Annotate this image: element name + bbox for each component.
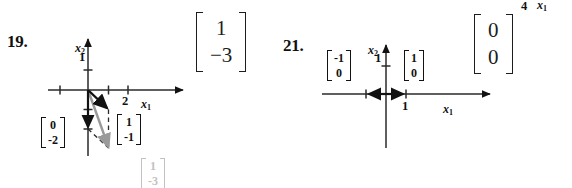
vector-u21-component-1: -1 [334,51,344,66]
plot-19 [40,34,200,188]
vector-label-v-21: 1 0 [404,50,424,85]
x-tick-label-1-21: 1 [402,99,408,114]
vector-sum-component-1: 1 [150,159,156,174]
vector-sum-component-2: -3 [148,174,158,188]
x-axis-label-21: x1 [443,99,453,117]
vector-label-v-19: 0 -2 [41,117,65,152]
y-tick-label-1-21: 1 [375,51,381,66]
problem-number-21: 21. [283,36,303,56]
answer-matrix-19: 1 −3 [196,12,246,76]
vector-u-component-2: -1 [124,130,134,145]
answer-21-row-2: 0 [488,44,499,71]
cutoff-tick-label-top: 4 [521,0,527,14]
vector-u21-component-2: 0 [336,66,342,81]
vector-label-sum-19: 1 -3 [141,158,165,188]
answer-19-row-2: −3 [210,42,232,69]
x-axis-19 [48,86,183,95]
vector-label-u-19: 1 -1 [117,114,141,149]
x-axis-21 [322,90,490,99]
problem-number-19: 19. [7,32,27,52]
vector-u-component-1: 1 [126,115,132,130]
vector-label-u-21: -1 0 [327,50,351,85]
x-axis-label-19: x1 [141,94,151,112]
y-tick-label-1-19: 1 [79,50,85,65]
vector-v21-component-2: 0 [411,66,417,81]
vector-v-component-1: 0 [50,118,56,133]
vector-v-component-2: -2 [48,133,58,148]
x-tick-label-2-19: 2 [122,94,128,109]
textbook-figure-page: 4 x1 19. [0,0,572,188]
answer-matrix-21: 0 0 [474,14,513,78]
answer-19-row-1: 1 [216,15,227,42]
y-axis-21 [382,45,391,148]
vector-v21-component-1: 1 [411,51,417,66]
answer-21-row-1: 0 [488,17,499,44]
cutoff-axis-label-top: x1 [537,0,547,13]
